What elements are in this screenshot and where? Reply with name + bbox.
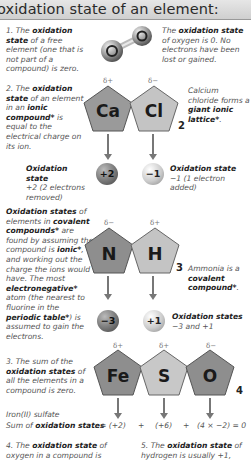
title-bar: oxidation state of an element: [0, 0, 251, 20]
delta-ca: δ+ [103, 77, 113, 85]
svg-text:Cl: Cl [145, 101, 163, 121]
arrowhead-n [104, 294, 112, 300]
delta-h: δ+ [150, 219, 160, 227]
delta-n: δ− [104, 219, 114, 227]
sum-plus-1: + [138, 421, 144, 430]
charge-plus2-ball: +2 [96, 163, 118, 185]
arrowhead-s [160, 413, 168, 419]
arrowhead-ca [104, 154, 112, 160]
subscript-4: 4 [236, 385, 243, 396]
rule5-text: 5. The oxidation state of hydrogen is us… [141, 441, 251, 460]
sum-plus-2: + [183, 421, 189, 430]
rule2-side-text: Calcium chloride forms a giant ionic lat… [188, 86, 250, 124]
subscript-3: 3 [176, 262, 183, 273]
subscript-2: 2 [178, 120, 185, 131]
cl-oxidation-text: Oxidation state−1 (1 electron added) [170, 164, 250, 193]
arrow-cl [152, 134, 154, 156]
arrow-n [107, 276, 109, 296]
sum-equation-label: Sum of oxidation states [6, 421, 105, 430]
charge-minus1-ball: −1 [142, 163, 164, 185]
sum-term-o: (4 × −2) = 0 [197, 421, 246, 430]
atom-ca-pentagon: Ca [83, 85, 133, 133]
nh3-oxidation-text: Oxidation states−3 and +1 [172, 312, 250, 331]
covalent-text: Oxidation states of elements in covalent… [6, 207, 94, 341]
atom-s-pentagon: S [139, 349, 189, 397]
arrowhead-cl [149, 154, 157, 160]
sum-term-fe: = (+2) [100, 421, 126, 430]
atom-fe-pentagon: Fe [93, 349, 143, 397]
rule1-side-text: The oxidation state of oxygen is 0. No e… [162, 26, 248, 64]
compound-name: Iron(II) sulfate [6, 410, 60, 419]
page-title: oxidation state of an element: [0, 1, 219, 17]
rule2-text: 2. The oxidation state of an element in … [6, 84, 84, 151]
atom-cl-pentagon: Cl [129, 85, 179, 133]
ca-oxidation-text: Oxidation state+2 (2 electrons removed) [26, 164, 92, 202]
atom-h-pentagon: H [130, 227, 180, 275]
arrowhead-o [206, 413, 214, 419]
svg-text:Ca: Ca [96, 101, 120, 121]
atom-n-pentagon: N [84, 227, 134, 275]
svg-text:N: N [101, 243, 116, 264]
rule3-text: 3. The sum of the oxidation states of al… [6, 357, 86, 395]
svg-text:S: S [158, 366, 170, 386]
covalent-side-text: Ammonia is a covalent compound*. [188, 264, 250, 293]
svg-text:H: H [147, 243, 162, 264]
svg-text:Fe: Fe [107, 366, 129, 386]
charge-plus1-ball: +1 [143, 310, 165, 332]
delta-cl: δ− [148, 77, 158, 85]
arrowhead-fe [114, 413, 122, 419]
arrow-h [152, 276, 154, 296]
rule1-text: 1. The oxidation state of a free element… [6, 26, 88, 74]
arrowhead-h [149, 294, 157, 300]
rule4-text: 4. The oxidation state of oxygen in a co… [6, 441, 116, 460]
sum-term-s: (+6) [155, 421, 172, 430]
charge-minus3-ball: −3 [97, 310, 119, 332]
svg-text:O: O [203, 366, 217, 386]
oxygen-molecule-icon [98, 24, 156, 64]
arrow-ca [107, 134, 109, 156]
atom-o-pentagon: O [185, 349, 235, 397]
